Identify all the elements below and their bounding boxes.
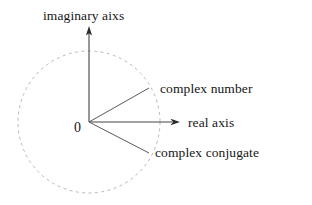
- complex-plane-diagram: imaginary aixs real axis complex number …: [0, 0, 312, 205]
- complex-number-label: complex number: [160, 82, 253, 96]
- imaginary-axis-label: imaginary aixs: [43, 9, 124, 23]
- complex-conjugate-label: complex conjugate: [155, 146, 259, 160]
- complex-conjugate-ray: [89, 122, 149, 153]
- real-axis-label: real axis: [188, 116, 234, 130]
- diagram-canvas: [0, 0, 312, 205]
- complex-number-ray: [89, 88, 149, 122]
- origin-label: 0: [74, 121, 81, 135]
